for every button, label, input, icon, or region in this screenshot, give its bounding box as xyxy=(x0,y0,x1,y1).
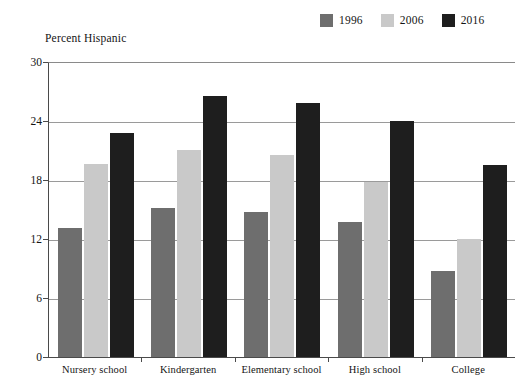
bar-group xyxy=(423,63,516,357)
x-axis-tick-label: High school xyxy=(349,364,401,375)
bar-group xyxy=(236,63,329,357)
bar-2006 xyxy=(364,182,388,357)
legend-item-1996: 1996 xyxy=(320,14,363,27)
y-axis-title: Percent Hispanic xyxy=(45,32,126,44)
x-axis-tick-label: College xyxy=(452,364,485,375)
y-axis-tick-label: 24 xyxy=(0,115,42,127)
legend-swatch-icon xyxy=(381,14,394,27)
y-axis-tick-label: 12 xyxy=(0,233,42,245)
x-axis-tick-mark xyxy=(141,357,142,362)
legend-item-label: 2006 xyxy=(400,14,424,26)
bar-2006 xyxy=(84,164,108,357)
bar-1996 xyxy=(151,208,175,357)
legend-item-2016: 2016 xyxy=(442,14,485,27)
bar-2006 xyxy=(177,150,201,357)
bar-1996 xyxy=(338,222,362,357)
bar-group xyxy=(329,63,422,357)
x-axis-tick-mark xyxy=(328,357,329,362)
legend-item-label: 2016 xyxy=(461,14,485,26)
plot-area xyxy=(48,62,515,357)
bar-2006 xyxy=(270,155,294,357)
bar-1996 xyxy=(431,271,455,357)
x-axis-tick-label: Kindergarten xyxy=(160,364,216,375)
x-axis-tick-label: Elementary school xyxy=(241,364,321,375)
x-axis-line xyxy=(48,357,515,358)
legend-swatch-icon xyxy=(442,14,455,27)
bar-2016 xyxy=(203,96,227,357)
chart-legend: 199620062016 xyxy=(320,12,484,28)
bar-group xyxy=(142,63,235,357)
legend-item-2006: 2006 xyxy=(381,14,424,27)
x-axis-tick-mark xyxy=(235,357,236,362)
bar-1996 xyxy=(244,212,268,357)
bar-2016 xyxy=(110,133,134,357)
bar-2016 xyxy=(296,103,320,357)
legend-item-label: 1996 xyxy=(339,14,363,26)
y-axis-tick-label: 0 xyxy=(0,351,42,363)
y-axis-tick-label: 30 xyxy=(0,56,42,68)
y-axis-tick-label: 6 xyxy=(0,292,42,304)
bar-1996 xyxy=(58,228,82,357)
bar-group xyxy=(49,63,142,357)
bar-2016 xyxy=(483,165,507,357)
y-axis-tick-label: 18 xyxy=(0,174,42,186)
x-axis-tick-label: Nursery school xyxy=(62,364,127,375)
bar-2016 xyxy=(390,121,414,357)
x-axis-tick-mark xyxy=(422,357,423,362)
bar-chart: 199620062016 Percent Hispanic 0612182430… xyxy=(0,0,529,391)
legend-swatch-icon xyxy=(320,14,333,27)
bar-2006 xyxy=(457,239,481,357)
